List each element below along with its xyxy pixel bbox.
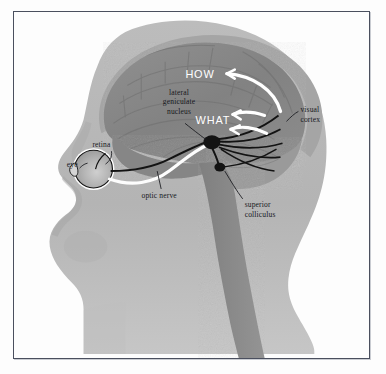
ventral-stream-label: WHAT bbox=[196, 114, 231, 126]
figure-frame: retina eye optic nerve lateral geniculat… bbox=[13, 11, 370, 359]
superior-colliculus-marker bbox=[214, 163, 225, 172]
lateral-geniculate-nucleus-marker bbox=[203, 135, 220, 149]
lgn-label-line1: lateral bbox=[169, 88, 189, 97]
superior-colliculus-label-line1: superior bbox=[245, 200, 271, 209]
jaw-shading bbox=[64, 231, 108, 263]
lgn-label-line3: nucleus bbox=[167, 107, 191, 116]
visual-cortex-label-line2: cortex bbox=[300, 115, 320, 124]
visual-pathway-diagram: retina eye optic nerve lateral geniculat… bbox=[14, 12, 369, 358]
dorsal-stream-label: HOW bbox=[185, 68, 214, 80]
lgn-label-line2: geniculate bbox=[163, 97, 196, 106]
optic-nerve-label: optic nerve bbox=[141, 191, 177, 200]
superior-colliculus-label-line2: colliculus bbox=[245, 210, 276, 219]
retina-label: retina bbox=[92, 140, 111, 149]
eye-label: eye bbox=[67, 160, 78, 169]
visual-cortex-label-line1: visual bbox=[300, 105, 319, 114]
neck-shading bbox=[84, 302, 126, 354]
figure-root: retina eye optic nerve lateral geniculat… bbox=[0, 0, 386, 374]
eyeball bbox=[75, 150, 113, 188]
